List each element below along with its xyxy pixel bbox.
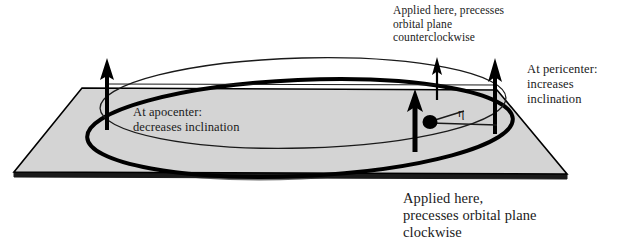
label-applied-here-clockwise: Applied here, precesses orbital plane cl…	[403, 190, 537, 241]
label-eta-angle: η	[458, 106, 464, 121]
label-applied-here-counterclockwise: Applied here, precesses orbital plane co…	[393, 4, 504, 45]
reference-plane	[14, 88, 567, 179]
orbital-precession-diagram: Applied here, precesses orbital plane co…	[0, 0, 623, 250]
label-at-pericenter: At pericenter: increases inclination	[527, 62, 597, 106]
central-body-dot	[423, 115, 438, 129]
plane-surface	[14, 88, 567, 174]
label-at-apocenter: At apocenter: decreases inclination	[133, 105, 240, 135]
